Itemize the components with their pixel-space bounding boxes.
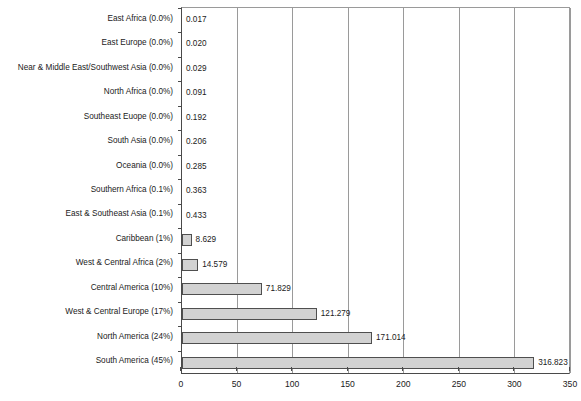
bar-value-label: 0.433: [182, 209, 207, 222]
category-label: West & Central Europe (17%): [0, 307, 177, 317]
bar: [182, 283, 262, 295]
category-label: East & Southeast Asia (0.1%): [0, 209, 177, 219]
gridline-350: [570, 8, 571, 373]
bar-row: 0.192: [182, 106, 569, 130]
category-axis-labels: East Africa (0.0%)East Europe (0.0%)Near…: [0, 7, 177, 374]
category-label: Oceania (0.0%): [0, 161, 177, 171]
value-tick-label: 350: [563, 379, 577, 390]
bar-row: 0.433: [182, 204, 569, 228]
bar-row: 0.091: [182, 81, 569, 105]
category-tick: [178, 228, 182, 229]
plot-area: 0.0170.0200.0290.0910.1920.2060.2850.363…: [181, 7, 570, 374]
bar-row: 0.017: [182, 8, 569, 32]
category-tick: [178, 302, 182, 303]
bar-value-label: 14.579: [198, 258, 227, 271]
value-tick-label: 300: [507, 379, 521, 390]
category-tick: [178, 130, 182, 131]
bar-row: 0.206: [182, 130, 569, 154]
category-label: North America (24%): [0, 332, 177, 342]
category-label: Caribbean (1%): [0, 234, 177, 244]
bar: [182, 308, 317, 320]
category-label: South America (45%): [0, 356, 177, 366]
category-tick: [178, 32, 182, 33]
bar-row: 171.014: [182, 326, 569, 350]
category-tick: [178, 277, 182, 278]
value-tick-150: [347, 367, 348, 371]
value-tick-label: 250: [452, 379, 466, 390]
value-tick-100: [291, 367, 292, 371]
category-tick: [178, 204, 182, 205]
category-tick: [178, 155, 182, 156]
category-label: Southeast Euope (0.0%): [0, 112, 177, 122]
bar-value-label: 121.279: [317, 307, 351, 320]
category-tick: [178, 8, 182, 9]
category-label: East Africa (0.0%): [0, 14, 177, 24]
bar-row: 121.279: [182, 302, 569, 326]
value-tick-300: [513, 367, 514, 371]
horizontal-bar-chart: East Africa (0.0%)East Europe (0.0%)Near…: [0, 0, 581, 401]
bar-value-label: 171.014: [372, 331, 406, 344]
category-tick: [178, 326, 182, 327]
category-label: East Europe (0.0%): [0, 38, 177, 48]
bar-value-label: 0.363: [182, 184, 207, 197]
category-label: Southern Africa (0.1%): [0, 185, 177, 195]
bar-value-label: 0.192: [182, 111, 207, 124]
value-tick-250: [458, 367, 459, 371]
value-tick-200: [402, 367, 403, 371]
bar-row: 0.029: [182, 57, 569, 81]
bar-value-label: 316.823: [534, 356, 568, 369]
bar-row: 71.829: [182, 277, 569, 301]
bar-row: 0.020: [182, 32, 569, 56]
category-label: North Africa (0.0%): [0, 87, 177, 97]
bar: [182, 332, 372, 344]
category-label: West & Central Africa (2%): [0, 258, 177, 268]
value-tick-350: [569, 367, 570, 371]
category-tick: [178, 351, 182, 352]
value-tick-label: 0: [179, 379, 184, 390]
bar-value-label: 0.206: [182, 135, 207, 148]
category-tick: [178, 57, 182, 58]
bar-value-label: 0.029: [182, 62, 207, 75]
value-tick-50: [236, 367, 237, 371]
bar-row: 0.285: [182, 155, 569, 179]
category-label: Near & Middle East/Southwest Asia (0.0%): [0, 63, 177, 73]
bar-row: 14.579: [182, 253, 569, 277]
value-tick-label: 100: [285, 379, 299, 390]
bar-value-label: 0.285: [182, 160, 207, 173]
bar: [182, 259, 198, 271]
value-tick-label: 50: [232, 379, 242, 390]
category-tick: [178, 81, 182, 82]
value-tick-label: 150: [341, 379, 355, 390]
bar-value-label: 0.020: [182, 37, 207, 50]
bar-row: 316.823: [182, 351, 569, 375]
bar-value-label: 0.017: [182, 13, 207, 26]
bar-row: 8.629: [182, 228, 569, 252]
bar-row: 0.363: [182, 179, 569, 203]
bar-value-label: 0.091: [182, 86, 207, 99]
value-tick-label: 200: [396, 379, 410, 390]
category-tick: [178, 179, 182, 180]
value-tick-0: [180, 367, 181, 371]
bar: [182, 234, 192, 246]
category-label: Central America (10%): [0, 283, 177, 293]
category-tick: [178, 106, 182, 107]
bar-value-label: 8.629: [192, 233, 217, 246]
bar-value-label: 71.829: [262, 282, 291, 295]
category-tick: [178, 253, 182, 254]
category-label: South Asia (0.0%): [0, 136, 177, 146]
